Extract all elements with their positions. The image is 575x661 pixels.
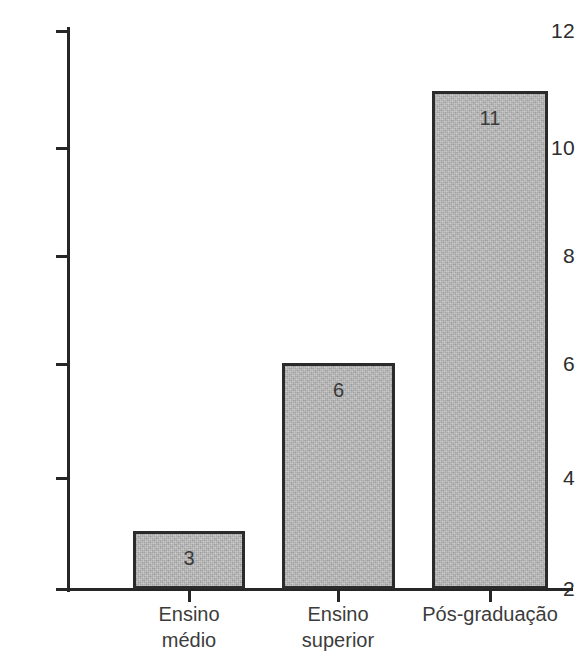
y-axis-tick-label-12: 12 [529,20,575,41]
bar-value-label: 11 [435,108,545,128]
bar-chart: 12 10 8 6 4 2 3 6 11 Ensino médio Ensino… [0,0,575,661]
x-axis-category-label-ensino-medio: Ensino médio [119,602,259,653]
x-axis-category-label-ensino-superior: Ensino superior [268,602,408,653]
bar-pos-graduacao: 11 [432,91,548,589]
x-axis-category-label-pos-graduacao: Pós-graduação [411,602,569,628]
bar-value-label: 6 [285,380,392,400]
bar-ensino-superior: 6 [282,363,395,589]
x-axis-tick-mark-ensino-superior [337,591,340,602]
bar-ensino-medio: 3 [133,531,245,589]
x-axis-tick-mark-pos-graduacao [489,591,492,602]
bar-value-label: 3 [136,548,242,568]
y-axis-line [67,27,70,592]
x-axis-tick-mark-ensino-medio [188,591,191,602]
